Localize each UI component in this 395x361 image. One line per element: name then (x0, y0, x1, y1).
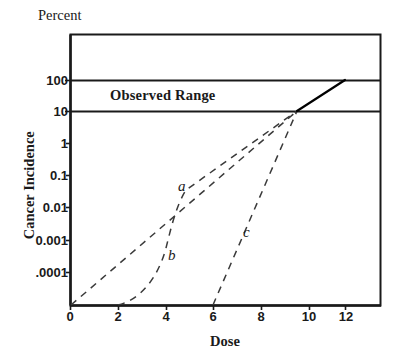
cancer-incidence-dose-chart: Percent Cancer Incidence Dose Observed R… (0, 0, 395, 361)
percent-axis-note: Percent (38, 8, 81, 23)
y-tick-label-0.1: 0.1 (50, 169, 68, 182)
curve-label-c: c (243, 224, 250, 241)
observed-range-label: Observed Range (110, 87, 216, 104)
curve-label-b: b (168, 247, 176, 264)
curve-b-line (118, 111, 297, 305)
x-tick-label-6: 6 (193, 310, 233, 323)
y-tick-label-1: 1 (61, 137, 68, 150)
x-tick-label-10: 10 (289, 310, 329, 323)
curve-a-line (71, 111, 297, 305)
observed-data-solid-line (297, 80, 345, 111)
y-tick-label-10: 10 (54, 105, 68, 118)
x-tick-label-0: 0 (50, 310, 90, 323)
y-tick-label-0.001: 0.001 (35, 234, 68, 247)
x-tick-label-12: 12 (326, 310, 366, 323)
x-axis-title: Dose (70, 334, 380, 349)
x-tick-label-2: 2 (98, 310, 138, 323)
y-tick-label-0.0001: .0001 (35, 266, 68, 279)
y-tick-label-100: 100 (46, 74, 68, 87)
plot-frame (71, 35, 381, 306)
x-tick-label-8: 8 (241, 310, 281, 323)
y-tick-label-0.01: 0.01 (43, 201, 68, 214)
y-axis-title: Cancer Incidence (22, 115, 37, 255)
curve-label-a: a (178, 178, 186, 195)
x-tick-label-4: 4 (146, 310, 186, 323)
